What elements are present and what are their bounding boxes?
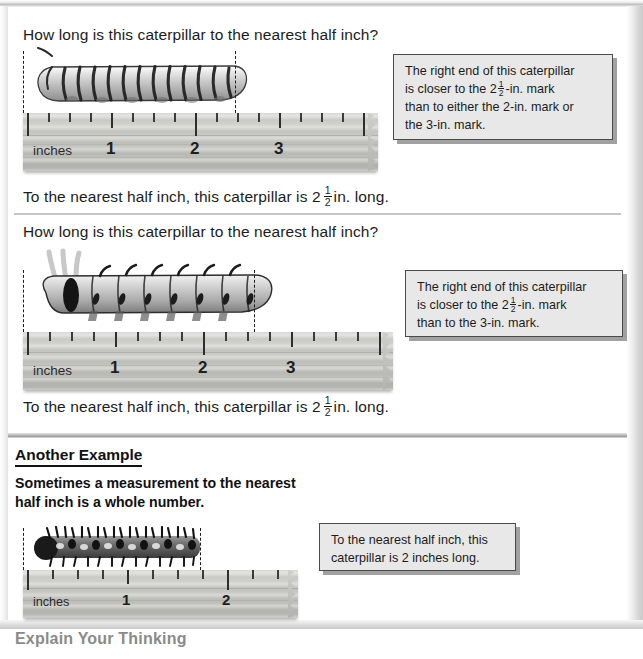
explain-your-thinking-heading: Explain Your Thinking	[15, 630, 187, 648]
callout-2-line-2: is closer to the 212-in. mark	[417, 297, 612, 316]
ruler-2-torn-edge	[383, 332, 393, 390]
ruler-1-mark-2: 2	[190, 139, 199, 159]
question-text-1: How long is this caterpillar to the near…	[23, 26, 378, 44]
measure-end-dash-3	[200, 528, 201, 570]
fraction-half: 12	[510, 296, 517, 315]
measure-end-dash-2	[254, 270, 255, 332]
ruler-2-mark-3: 3	[286, 358, 295, 378]
answer-text-2: To the nearest half inch, this caterpill…	[23, 396, 389, 418]
callout-box-3: To the nearest half inch, this caterpill…	[319, 523, 516, 571]
ruler-1-mark-3: 3	[274, 139, 283, 159]
fraction-half: 1 2	[324, 395, 332, 417]
worksheet-page: How long is this caterpillar to the near…	[0, 0, 643, 659]
another-example-heading: Another Example	[15, 446, 142, 467]
callout-box-1: The right end of this caterpillar is clo…	[393, 54, 613, 140]
measure-start-dash-3	[23, 528, 24, 570]
ruler-3-torn-edge	[288, 570, 298, 618]
ruler-3-unit-label: inches	[33, 595, 69, 609]
ruler-2-unit-label: inches	[33, 363, 72, 378]
ruler-3-mark-2: 2	[222, 591, 230, 608]
another-example-body-line-2: half inch is a whole number.	[15, 493, 204, 512]
ruler-1: inches 1 2 3	[23, 113, 378, 171]
ruler-1-unit-label: inches	[33, 143, 72, 158]
measure-end-dash-1	[235, 51, 236, 113]
banded-caterpillar-image	[32, 47, 250, 109]
page-frame-bottom	[0, 620, 643, 629]
page-frame-left	[0, 6, 8, 628]
callout-1-line-4: the 3-in. mark.	[405, 117, 602, 135]
ruler-1-mark-1: 1	[106, 139, 115, 159]
tentacled-caterpillar-image	[30, 247, 280, 327]
page-frame-top	[0, 0, 643, 7]
another-example-rule	[8, 433, 627, 438]
measure-start-dash-1	[23, 51, 24, 113]
ruler-3: inches 1 2	[23, 570, 298, 618]
section-divider	[14, 213, 621, 215]
ruler-2-mark-2: 2	[198, 358, 207, 378]
callout-1-line-2: is closer to the 212-in. mark	[405, 81, 602, 100]
bristly-caterpillar-image	[30, 526, 206, 568]
measure-start-dash-2	[23, 270, 24, 332]
callout-3-line-2: caterpillar is 2 inches long.	[331, 550, 505, 568]
fraction-half: 12	[498, 80, 505, 99]
ruler-2-mark-1: 1	[110, 358, 119, 378]
callout-2-line-3: than to the 3-in. mark.	[417, 315, 612, 333]
page-frame-right	[627, 6, 643, 628]
callout-2-line-1: The right end of this caterpillar	[417, 279, 612, 297]
ruler-3-mark-1: 1	[122, 591, 130, 608]
page-content: How long is this caterpillar to the near…	[8, 7, 627, 620]
ruler-1-torn-edge	[368, 113, 378, 171]
fraction-half: 1 2	[324, 185, 332, 207]
ruler-2: inches 1 2 3	[23, 332, 393, 390]
callout-3-line-1: To the nearest half inch, this	[331, 532, 505, 550]
callout-box-2: The right end of this caterpillar is clo…	[405, 270, 623, 337]
callout-1-line-1: The right end of this caterpillar	[405, 63, 602, 81]
answer-text-1: To the nearest half inch, this caterpill…	[23, 186, 389, 208]
question-text-2: How long is this caterpillar to the near…	[23, 223, 378, 241]
another-example-body-line-1: Sometimes a measurement to the nearest	[15, 474, 296, 493]
callout-1-line-3: than to either the 2-in. mark or	[405, 99, 602, 117]
